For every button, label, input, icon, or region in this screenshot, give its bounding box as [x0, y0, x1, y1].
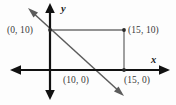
coordinate-plane-figure: (0, 10) (15, 10) (10, 0) (15, 0) x y — [0, 0, 176, 105]
y-axis-arrow-up-icon — [45, 3, 55, 13]
x-axis — [10, 65, 170, 75]
graph-canvas — [0, 0, 176, 105]
x-axis-label: x — [151, 55, 156, 66]
x-axis-arrow-left-icon — [10, 65, 21, 75]
x-axis-arrow-right-icon — [159, 65, 170, 75]
y-axis-label: y — [61, 4, 66, 15]
point-label-15-0: (15, 0) — [124, 76, 150, 86]
point-marker-15-0 — [122, 68, 126, 72]
rectangle-shape — [50, 30, 124, 70]
point-label-0-10: (0, 10) — [7, 26, 33, 36]
point-marker-0-10 — [48, 28, 52, 32]
point-marker-15-10 — [122, 28, 126, 32]
vertex-dots — [48, 28, 126, 72]
point-label-10-0: (10, 0) — [63, 76, 89, 86]
point-label-15-10: (15, 10) — [128, 26, 159, 36]
y-axis — [45, 3, 55, 100]
y-axis-arrow-down-icon — [45, 90, 55, 100]
